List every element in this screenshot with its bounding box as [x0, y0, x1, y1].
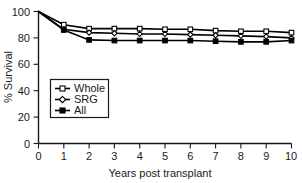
- y-tick-label-80: 80: [18, 32, 30, 44]
- data-point: [137, 26, 142, 31]
- x-tick-label-5: 5: [162, 150, 168, 162]
- x-tick-label-8: 8: [238, 150, 244, 162]
- x-tick-label-6: 6: [187, 150, 193, 162]
- x-tick-label-7: 7: [213, 150, 219, 162]
- y-axis-title: % Survival: [2, 51, 14, 103]
- data-point: [62, 28, 67, 33]
- data-point: [239, 40, 244, 45]
- data-point: [163, 38, 168, 43]
- data-point: [289, 38, 294, 43]
- data-point: [264, 29, 269, 34]
- chart-figure: 0 20 40 60 80 100 0 1 2 3 4 5 6: [0, 0, 302, 183]
- y-tick-label-40: 40: [18, 85, 30, 97]
- y-tick-label-100: 100: [12, 6, 30, 18]
- chart-background: [0, 0, 302, 183]
- data-point: [137, 38, 142, 43]
- data-point: [264, 40, 269, 45]
- legend-marker-whole-icon: [60, 86, 65, 91]
- y-tick-label-60: 60: [18, 58, 30, 70]
- x-tick-label-9: 9: [263, 150, 269, 162]
- x-tick-label-1: 1: [61, 150, 67, 162]
- data-point: [112, 38, 117, 43]
- x-tick-label-10: 10: [285, 150, 297, 162]
- legend-label-all: All: [74, 104, 86, 116]
- x-tick-label-2: 2: [86, 150, 92, 162]
- y-tick-label-0: 0: [24, 138, 30, 150]
- data-point: [188, 38, 193, 43]
- x-tick-label-3: 3: [111, 150, 117, 162]
- data-point: [87, 38, 92, 43]
- data-point: [289, 30, 294, 35]
- y-tick-label-20: 20: [18, 111, 30, 123]
- x-axis-title: Years post transplant: [109, 167, 212, 179]
- chart-legend: Whole SRG All: [51, 80, 109, 118]
- data-point: [213, 39, 218, 44]
- legend-marker-all-icon: [60, 108, 65, 113]
- survival-curve-chart: 0 20 40 60 80 100 0 1 2 3 4 5 6: [0, 0, 302, 183]
- data-point: [188, 27, 193, 32]
- x-tick-label-4: 4: [137, 150, 143, 162]
- x-tick-label-0: 0: [35, 150, 41, 162]
